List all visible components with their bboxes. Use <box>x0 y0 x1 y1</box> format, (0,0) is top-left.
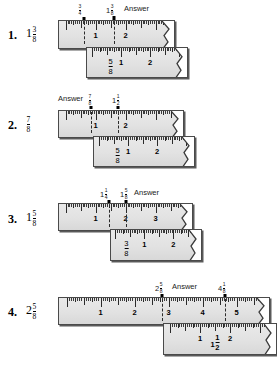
ruler-number-label: 1 <box>98 308 102 317</box>
callout-whole: 1 <box>112 96 116 105</box>
lead-fraction: 78 <box>27 116 31 133</box>
alignment-line-1 <box>162 299 163 321</box>
callout-label-1: 258 <box>155 282 162 294</box>
lead-whole: 1 <box>26 26 32 40</box>
problem-4: 4. 258 258 Answer 418 12345 11122 <box>0 275 277 367</box>
callout-fraction: 34 <box>79 4 82 16</box>
lead-whole: 1 <box>26 210 32 224</box>
answer-label: Answer <box>124 4 149 13</box>
callout-fraction: 12 <box>117 94 120 106</box>
callout-whole: 4 <box>218 284 222 293</box>
ruler-bottom: 5812 <box>93 136 195 167</box>
callout-whole: 1 <box>106 6 110 15</box>
ruler-number-label: 1 <box>94 121 98 130</box>
ruler-number-label: 4 <box>200 308 204 317</box>
alignment-line-1 <box>91 112 92 133</box>
ruler-number-label: 1 <box>94 31 98 40</box>
ruler-number-label: 38 <box>124 240 129 257</box>
callout-whole: 1 <box>120 190 124 199</box>
callout-whole: 1 <box>100 190 104 199</box>
ruler-bottom: 5812 <box>86 47 188 78</box>
answer-label: Answer <box>134 188 159 197</box>
alignment-line-2 <box>118 112 119 133</box>
alignment-line-2 <box>114 22 115 44</box>
tick-row: 5812 <box>87 48 187 77</box>
answer-label: Answer <box>58 94 83 103</box>
ruler-number-label: 1 <box>94 214 98 223</box>
ruler-number-label: 3 <box>154 214 158 223</box>
alignment-line-1 <box>109 205 110 227</box>
problem-expression: 158 <box>26 210 36 227</box>
callout-label-1: 34 <box>78 4 81 16</box>
callout-fraction: 58 <box>125 188 128 200</box>
callout-fraction: 38 <box>111 4 114 16</box>
ruler-number-label: 2 <box>155 147 159 156</box>
problem-expression: 258 <box>26 303 36 320</box>
problem-index: 4. <box>8 305 17 320</box>
problem-2: 2. 78 Answer 78 112 12 5812 <box>0 92 277 180</box>
ruler-number-label: 2 <box>171 240 175 249</box>
ruler-number-label: 2 <box>228 334 232 343</box>
problem-expression: 78 <box>26 116 30 133</box>
callout-label-2: 138 <box>106 4 113 16</box>
callout-label-2: 418 <box>218 282 225 294</box>
ruler-top: 12 <box>58 110 184 138</box>
lead-whole: 2 <box>26 303 32 317</box>
lead-fraction: 58 <box>33 210 37 227</box>
tick-row: 12345 <box>59 298 269 324</box>
problem-3: 3. 158 114 158 Answer 123 3812 <box>0 180 277 275</box>
callout-label-2: 158 <box>120 188 127 200</box>
ruler-number-label: 58 <box>115 147 120 164</box>
ruler-number-label: 2 <box>148 58 152 67</box>
ruler-top: 12 <box>58 20 175 49</box>
tick-row: 3812 <box>111 230 201 260</box>
worksheet-page: 1. 138 34 138 Answer 12 5812 2. 78 <box>0 0 277 367</box>
alignment-line-2 <box>126 205 127 227</box>
callout-fraction: 14 <box>105 188 108 200</box>
callout-fraction: 18 <box>223 282 226 294</box>
alignment-line-1 <box>84 22 85 44</box>
ruler-number-label: 1 <box>126 147 130 156</box>
lead-fraction: 38 <box>33 26 37 43</box>
ruler-top: 12345 <box>58 297 270 325</box>
callout-fraction: 78 <box>89 94 92 106</box>
ruler-number-label: 1 <box>198 334 202 343</box>
problem-index: 2. <box>8 118 17 133</box>
ruler-number-label: 2 <box>124 121 128 130</box>
ruler-number-label: 5 <box>234 308 238 317</box>
callout-label-1: 114 <box>100 188 107 200</box>
alignment-line-2 <box>225 299 226 321</box>
callout-label-2: 112 <box>112 94 119 106</box>
answer-marker <box>90 106 93 109</box>
ruler-number-label: 112 <box>211 334 220 351</box>
callout-fraction: 58 <box>160 282 163 294</box>
ruler-bottom: 11122 <box>163 323 277 355</box>
ruler-number-label: 1 <box>142 240 146 249</box>
tick-row: 11122 <box>164 324 276 354</box>
ruler-number-label: 2 <box>124 31 128 40</box>
problem-index: 3. <box>8 212 17 227</box>
ruler-number-label: 2 <box>132 308 136 317</box>
answer-label: Answer <box>172 282 197 291</box>
tick-row: 5812 <box>94 137 194 166</box>
lead-fraction: 58 <box>33 303 37 320</box>
ruler-number-label: 58 <box>108 58 113 75</box>
callout-whole: 2 <box>155 284 159 293</box>
tick-row: 12 <box>59 21 174 48</box>
problem-expression: 138 <box>26 26 36 43</box>
ruler-number-label: 1 <box>119 58 123 67</box>
problem-index: 1. <box>8 28 17 43</box>
callout-marker <box>117 106 120 109</box>
ruler-number-label: 3 <box>166 308 170 317</box>
tick-row: 12 <box>59 111 183 137</box>
ruler-bottom: 3812 <box>110 229 202 261</box>
problem-1: 1. 138 34 138 Answer 12 5812 <box>0 0 277 92</box>
callout-label-1: 78 <box>88 94 91 106</box>
